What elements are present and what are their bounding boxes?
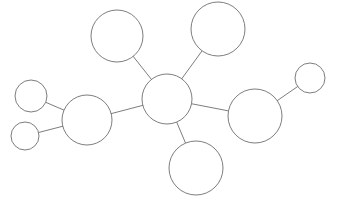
edge-left-large-to-small-lower-left — [39, 126, 63, 132]
edge-hub-to-left-large — [111, 105, 143, 113]
center-hub-node[interactable] — [142, 74, 192, 124]
diagram-canvas — [0, 0, 338, 206]
nodes-layer — [11, 2, 325, 195]
left-large-node[interactable] — [62, 95, 112, 145]
edge-hub-to-right-large — [192, 104, 229, 111]
bottom-middle-node[interactable] — [169, 141, 223, 195]
network-graph — [0, 0, 338, 206]
right-large-node[interactable] — [228, 89, 282, 143]
top-middle-node[interactable] — [91, 10, 143, 62]
edge-right-large-to-small-far-right — [277, 87, 297, 101]
edge-hub-to-top-right — [182, 51, 202, 79]
edge-left-large-to-small-upper-left — [46, 102, 64, 110]
edge-hub-to-top-middle — [133, 56, 151, 79]
small-lower-left-node[interactable] — [11, 122, 39, 150]
edge-hub-to-bottom-middle — [177, 122, 186, 143]
small-far-right-node[interactable] — [295, 63, 325, 93]
small-upper-left-node[interactable] — [15, 80, 47, 112]
top-right-node[interactable] — [191, 2, 245, 56]
